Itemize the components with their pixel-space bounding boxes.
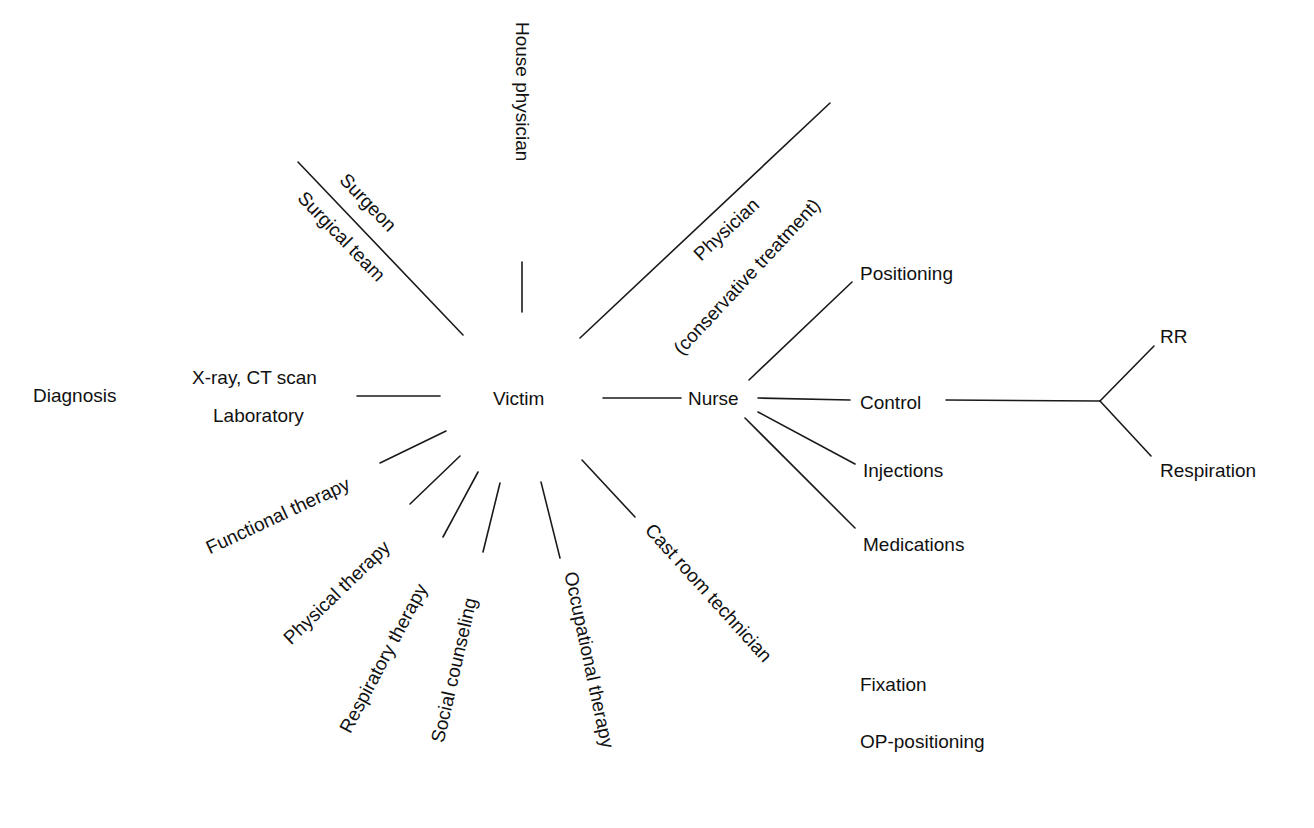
control-branch-rr: RR: [1160, 327, 1187, 346]
line-functional-therapy: [380, 431, 446, 463]
nurse-node: Nurse: [688, 389, 739, 408]
line-physical-therapy: [410, 456, 460, 504]
spoke-house-physician: House physician: [513, 22, 532, 161]
line-branch-respiration: [1100, 401, 1151, 456]
nurse-task-positioning: Positioning: [860, 264, 953, 283]
line-control-branch: [946, 400, 1100, 401]
control-branch-respiration: Respiration: [1160, 461, 1256, 480]
nurse-task-control: Control: [860, 393, 921, 412]
line-nurse-positioning: [749, 282, 852, 380]
diagnosis-item-laboratory: Laboratory: [213, 406, 304, 425]
nurse-task-injections: Injections: [863, 461, 943, 480]
cast-room-task-fixation: Fixation: [860, 675, 927, 694]
center-node-victim: Victim: [493, 389, 544, 408]
diagnosis-label: Diagnosis: [33, 386, 116, 405]
line-social-counseling: [483, 483, 500, 552]
line-nurse-injections: [758, 412, 855, 464]
line-branch-rr: [1100, 346, 1154, 401]
connector-lines: [0, 0, 1314, 828]
nurse-task-medications: Medications: [863, 535, 964, 554]
line-cast-room: [582, 460, 635, 517]
line-respiratory-therapy: [443, 472, 478, 537]
line-surgeon: [298, 162, 463, 335]
cast-room-task-op-positioning: OP-positioning: [860, 732, 985, 751]
diagnosis-item-xray-ct: X-ray, CT scan: [192, 368, 317, 387]
line-occupational-therapy: [541, 482, 560, 558]
line-nurse-control: [758, 398, 850, 400]
